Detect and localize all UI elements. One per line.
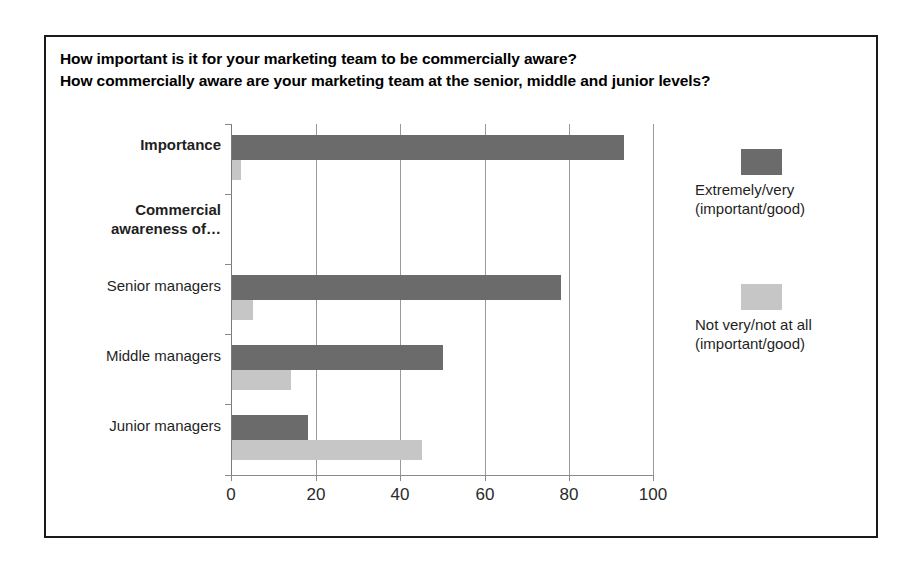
bar-junior-managers-extremely-very	[232, 415, 308, 440]
bar-importance-extremely-very	[232, 135, 624, 160]
legend-label-extremely-very: Extremely/very (important/good)	[695, 180, 880, 218]
x-tick-mark-40	[400, 475, 401, 481]
bar-junior-managers-not-very	[232, 440, 422, 460]
chart-legend: Extremely/very (important/good) Not very…	[695, 37, 880, 536]
chart-figure-frame: How important is it for your marketing t…	[44, 35, 878, 538]
bar-senior-managers-extremely-very	[232, 275, 561, 300]
bar-importance-not-very	[232, 160, 241, 180]
y-tick-senior	[225, 334, 232, 335]
y-tick-importance	[225, 194, 232, 195]
plot-area: 0 20 40 60 80 100 Importance Commercial …	[46, 37, 880, 536]
x-tick-label-0: 0	[226, 485, 235, 505]
x-tick-mark-60	[485, 475, 486, 481]
x-tick-label-20: 20	[307, 485, 326, 505]
gridline-80	[569, 124, 570, 475]
x-tick-label-40: 40	[391, 485, 410, 505]
y-tick-commercial-awareness	[225, 264, 232, 265]
y-axis-label-commercial-awareness: Commercial awareness of…	[51, 200, 221, 238]
bar-middle-managers-extremely-very	[232, 345, 443, 370]
x-tick-label-60: 60	[476, 485, 495, 505]
legend-swatch-not-very-icon	[741, 284, 782, 310]
gridline-100	[653, 124, 654, 475]
y-axis-label-junior-managers: Junior managers	[51, 416, 221, 435]
y-axis-label-importance: Importance	[51, 135, 221, 154]
y-tick-junior	[225, 475, 232, 476]
y-axis-label-senior-managers: Senior managers	[51, 276, 221, 295]
bar-middle-managers-not-very	[232, 370, 291, 390]
x-tick-label-100: 100	[639, 485, 667, 505]
x-tick-mark-20	[316, 475, 317, 481]
x-tick-label-80: 80	[560, 485, 579, 505]
legend-swatch-extremely-very-icon	[741, 149, 782, 175]
y-tick-middle	[225, 404, 232, 405]
y-axis-labels: Importance Commercial awareness of… Seni…	[46, 37, 221, 536]
x-tick-mark-80	[569, 475, 570, 481]
y-axis-label-middle-managers: Middle managers	[51, 346, 221, 365]
x-tick-mark-100	[653, 475, 654, 481]
bar-senior-managers-not-very	[232, 300, 253, 320]
x-axis-line	[231, 475, 654, 476]
y-tick-top	[225, 124, 232, 125]
legend-label-not-very: Not very/not at all (important/good)	[695, 315, 880, 353]
